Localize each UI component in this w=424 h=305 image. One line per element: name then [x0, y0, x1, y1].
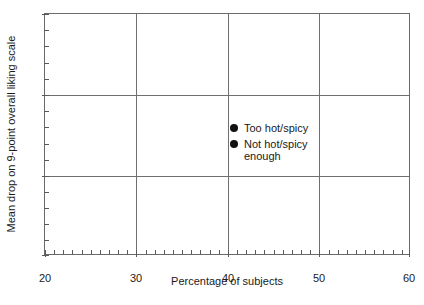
y-tick-minor: [44, 160, 49, 161]
x-tick-minor: [146, 250, 147, 255]
x-tick-minor: [329, 250, 330, 255]
x-tick-minor: [356, 250, 357, 255]
x-tick-minor: [155, 250, 156, 255]
x-tick-minor: [91, 250, 92, 255]
x-tick-minor: [393, 250, 394, 255]
data-point-marker-icon: [230, 140, 238, 148]
y-tick-minor: [44, 46, 49, 47]
y-axis-title: Mean drop on 9-point overall liking scal…: [4, 13, 18, 255]
x-tick-minor: [374, 250, 375, 255]
x-tick-major-40: [228, 250, 229, 257]
x-tick-minor: [292, 250, 293, 255]
x-tick-minor: [54, 250, 55, 255]
x-tick-major-50: [319, 250, 320, 257]
x-axis-title: Percentage of subjects: [44, 275, 410, 288]
x-tick-minor: [63, 250, 64, 255]
x-tick-minor: [100, 250, 101, 255]
plot-area: Too hot/spicy Not hot/spicy enough –3 –2…: [44, 13, 410, 255]
y-tick-minor: [44, 240, 49, 241]
y-tick-major--1: [42, 176, 49, 177]
x-tick-minor: [72, 250, 73, 255]
x-tick-minor: [191, 250, 192, 255]
x-tick-minor: [173, 250, 174, 255]
gridline-x-50: [319, 14, 320, 254]
x-tick-minor: [255, 250, 256, 255]
x-tick-minor: [338, 250, 339, 255]
y-tick-minor: [44, 79, 49, 80]
x-tick-minor: [283, 250, 284, 255]
x-tick-minor: [164, 250, 165, 255]
y-tick-minor: [44, 30, 49, 31]
x-tick-minor: [246, 250, 247, 255]
legend-item-not-hot-spicy-enough: Not hot/spicy enough: [230, 138, 308, 162]
x-tick-minor: [219, 250, 220, 255]
x-tick-major-60: [409, 250, 410, 257]
x-tick-minor: [82, 250, 83, 255]
x-tick-minor: [210, 250, 211, 255]
x-tick-minor: [310, 250, 311, 255]
y-tick-minor: [44, 127, 49, 128]
x-tick-minor: [383, 250, 384, 255]
x-tick-minor: [301, 250, 302, 255]
x-tick-minor: [347, 250, 348, 255]
chart-figure: Mean drop on 9-point overall liking scal…: [0, 0, 424, 305]
x-tick-minor: [264, 250, 265, 255]
x-tick-minor: [402, 250, 403, 255]
legend-item-label: Too hot/spicy: [244, 122, 308, 134]
x-tick-major-30: [136, 250, 137, 257]
x-tick-major-20: [45, 250, 46, 257]
chart-legend: Too hot/spicy Not hot/spicy enough: [230, 122, 308, 166]
data-point-marker-icon: [230, 124, 238, 132]
y-tick-major--3: [42, 14, 49, 15]
y-tick-minor: [44, 224, 49, 225]
y-tick-minor: [44, 208, 49, 209]
gridline-x-40: [228, 14, 229, 254]
gridline-x-30: [136, 14, 137, 254]
x-tick-minor: [109, 250, 110, 255]
x-tick-minor: [274, 250, 275, 255]
y-tick-minor: [44, 111, 49, 112]
x-tick-minor: [237, 250, 238, 255]
y-tick-minor: [44, 192, 49, 193]
legend-item-too-hot-spicy: Too hot/spicy: [230, 122, 308, 134]
legend-item-label: Not hot/spicy enough: [244, 138, 308, 162]
x-tick-minor: [182, 250, 183, 255]
y-tick-major--2: [42, 95, 49, 96]
gridline-y--2: [45, 95, 409, 96]
x-tick-minor: [365, 250, 366, 255]
x-tick-minor: [127, 250, 128, 255]
x-tick-minor: [200, 250, 201, 255]
x-tick-minor: [118, 250, 119, 255]
y-tick-minor: [44, 144, 49, 145]
gridline-y--1: [45, 176, 409, 177]
y-tick-minor: [44, 63, 49, 64]
